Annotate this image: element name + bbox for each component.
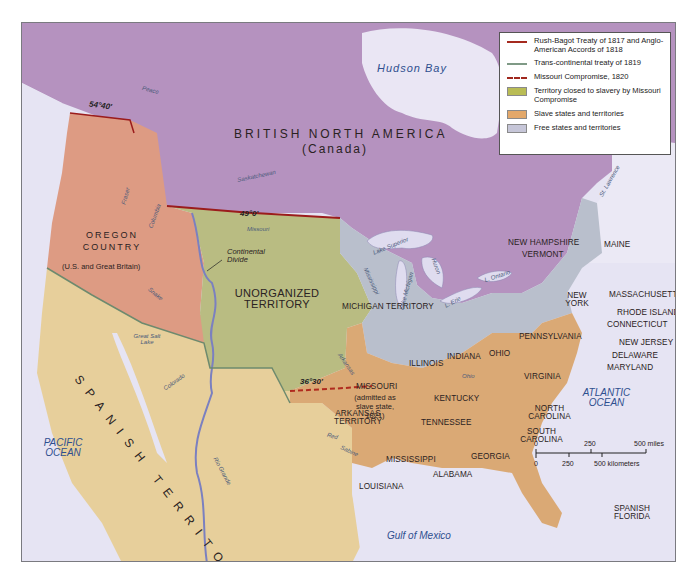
label-new-york: NEW YORK (562, 292, 592, 308)
label-illinois: ILLINOIS (409, 360, 443, 368)
map-legend: Rush-Bagot Treaty of 1817 and Anglo-Amer… (499, 32, 671, 155)
label-hudson-bay: Hudson Bay (377, 63, 447, 74)
label-virginia: VIRGINIA (524, 373, 561, 381)
label-gulf-of-mexico: Gulf of Mexico (387, 531, 451, 541)
label-oregon-sub: (U.S. and Great Britain) (62, 263, 140, 271)
label-massachusetts: MASSACHUSETTS (609, 291, 676, 299)
label-connecticut: CONNECTICUT (607, 321, 668, 329)
label-new-jersey: NEW JERSEY (619, 339, 673, 347)
scale-miles-500: 500 miles (634, 440, 664, 447)
red-line-icon (507, 41, 527, 43)
label-michigan-territory: MICHIGAN TERRITORY (342, 303, 434, 311)
label-british-north-america: BRITISH NORTH AMERICA (234, 128, 447, 140)
label-ohio: OHIO (489, 350, 510, 358)
label-river-missouri: Missouri (247, 226, 269, 232)
label-maine: MAINE (604, 241, 630, 249)
label-maryland: MARYLAND (607, 364, 653, 372)
label-alabama: ALABAMA (433, 471, 472, 479)
scale-bar: 0 250 500 miles 0 250 500 kilometers (534, 440, 674, 474)
scale-miles-250: 250 (584, 440, 596, 447)
legend-label: Territory closed to slavery by Missouri … (534, 87, 664, 104)
label-new-hampshire: NEW HAMPSHIRE (508, 239, 579, 247)
label-missouri: MISSOURI (356, 383, 397, 391)
legend-item-closed-territory: Territory closed to slavery by Missouri … (506, 87, 664, 104)
label-georgia: GEORGIA (471, 453, 510, 461)
label-spanish-florida: SPANISH FLORIDA (612, 505, 652, 521)
legend-label: Trans-continental treaty of 1819 (534, 59, 641, 68)
label-pacific-ocean: PACIFIC OCEAN (38, 438, 88, 458)
legend-item-rush-bagot: Rush-Bagot Treaty of 1817 and Anglo-Amer… (506, 37, 664, 54)
label-kentucky: KENTUCKY (434, 395, 479, 403)
label-lat-49-0: 49°0' (240, 210, 258, 218)
label-vermont: VERMONT (522, 251, 564, 259)
scale-km-0: 0 (534, 460, 538, 467)
scale-km-250: 250 (562, 460, 574, 467)
lavender-swatch-icon (507, 124, 527, 133)
label-rhode-island: RHODE ISLAND (617, 309, 676, 317)
label-great-salt-lake: Great Salt Lake (132, 333, 162, 345)
dashed-line-icon (507, 77, 527, 79)
label-missouri-note: (admitted as slave state, 1821) (350, 393, 400, 420)
label-delaware: DELAWARE (612, 352, 658, 360)
legend-label: Rush-Bagot Treaty of 1817 and Anglo-Amer… (534, 37, 664, 54)
orange-swatch-icon (507, 110, 527, 119)
label-north-carolina: NORTH CAROLINA (527, 405, 572, 421)
gray-green-line-icon (507, 63, 527, 65)
scale-miles-0: 0 (534, 440, 538, 447)
label-unorganized-territory: UNORGANIZED TERRITORY (227, 288, 327, 310)
label-lat-36-30: 36°30' (300, 378, 323, 386)
legend-label: Slave states and territories (534, 110, 624, 119)
scale-km-500: 500 kilometers (594, 460, 640, 467)
legend-label: Missouri Compromise, 1820 (534, 73, 629, 82)
label-continental-divide: Continental Divide (227, 248, 272, 263)
legend-item-free-states: Free states and territories (506, 124, 664, 133)
legend-item-transcontinental: Trans-continental treaty of 1819 (506, 59, 664, 68)
legend-label: Free states and territories (534, 124, 621, 133)
label-pennsylvania: PENNSYLVANIA (519, 333, 582, 341)
olive-swatch-icon (507, 87, 527, 96)
label-mississippi: MISSISSIPPI (386, 456, 436, 464)
label-atlantic-ocean: ATLANTIC OCEAN (579, 388, 634, 408)
label-louisiana: LOUISIANA (359, 483, 404, 491)
label-river-ohio: Ohio (462, 373, 475, 379)
legend-item-slave-states: Slave states and territories (506, 110, 664, 119)
label-indiana: INDIANA (447, 353, 481, 361)
label-canada: (Canada) (302, 143, 368, 155)
legend-item-missouri-compromise: Missouri Compromise, 1820 (506, 73, 664, 82)
label-oregon-country: OREGON COUNTRY (77, 230, 147, 253)
label-tennessee: TENNESSEE (421, 419, 472, 427)
